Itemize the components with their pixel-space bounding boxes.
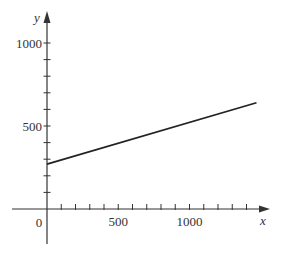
- data-line: [47, 103, 256, 164]
- x-axis-arrow-icon: [259, 206, 270, 213]
- line-chart: 500100050010000xy: [0, 0, 291, 263]
- y-tick-label: 1000: [16, 36, 42, 51]
- origin-label: 0: [36, 215, 43, 230]
- ticks: [44, 43, 247, 210]
- y-tick-label: 500: [23, 119, 43, 134]
- x-tick-label: 500: [109, 214, 129, 229]
- y-axis-arrow-icon: [44, 11, 51, 23]
- axes: [12, 11, 270, 244]
- x-axis-label: x: [259, 213, 266, 228]
- y-axis-label: y: [32, 10, 40, 25]
- tick-labels: 500100050010000xy: [16, 10, 266, 230]
- data-series: [47, 103, 256, 164]
- x-tick-label: 1000: [177, 214, 203, 229]
